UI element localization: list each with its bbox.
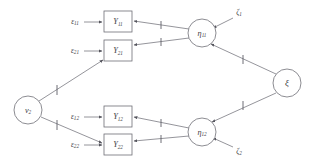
label-epsilon-12: ε12 xyxy=(71,112,80,122)
loading-path-group xyxy=(134,21,189,143)
error-arrow-group xyxy=(84,22,102,145)
sem-path-diagram: Y11 Y21 Y12 Y22 η11 η12 ξ ν2 ε11 ε21 ε12… xyxy=(0,0,316,164)
label-xi: ξ xyxy=(285,78,289,88)
label-epsilon-22: ε22 xyxy=(71,140,80,150)
label-zeta-2: ζ2 xyxy=(236,147,242,157)
nu-path-group xyxy=(39,60,103,143)
indicator-box-group: Y11 Y21 Y12 Y22 xyxy=(104,11,132,155)
path-zeta1-to-eta11 xyxy=(213,18,233,28)
path-xi-to-eta12 xyxy=(212,93,276,122)
error-label-group: ε11 ε21 ε12 ε22 ζ1 ζ2 xyxy=(71,8,242,157)
path-nu2-to-Y21 xyxy=(39,60,103,101)
path-zeta2-to-eta12 xyxy=(213,138,233,147)
label-epsilon-21: ε21 xyxy=(71,46,80,56)
label-epsilon-11: ε11 xyxy=(71,17,79,27)
path-eta11-to-Y21 xyxy=(134,38,189,45)
diagram-canvas: Y11 Y21 Y12 Y22 η11 η12 ξ ν2 ε11 ε21 ε12… xyxy=(0,0,316,164)
path-eta12-to-Y12 xyxy=(134,117,189,128)
path-xi-to-eta11 xyxy=(211,44,276,74)
label-zeta-1: ζ1 xyxy=(236,8,242,18)
path-eta11-to-Y11 xyxy=(134,21,189,29)
structural-path-group xyxy=(211,44,276,122)
path-eta12-to-Y22 xyxy=(134,136,189,141)
disturbance-arrow-group xyxy=(213,18,233,147)
